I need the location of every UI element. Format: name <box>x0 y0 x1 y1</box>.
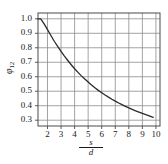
y-tick-label: 1.0 <box>10 14 32 23</box>
y-tick-label: 0.9 <box>10 28 32 37</box>
x-axis-label-denominator: d <box>79 147 103 157</box>
x-axis-label-numerator: s <box>79 138 103 147</box>
plot-background <box>38 13 160 126</box>
y-tick-label: 0.5 <box>10 86 32 95</box>
y-tick-label: 0.4 <box>10 101 32 110</box>
x-axis-label: s d <box>79 138 103 158</box>
x-tick-label: 10 <box>148 130 164 139</box>
y-axis-label-subscript: 12 <box>8 62 16 68</box>
y-tick-label: 0.3 <box>10 115 32 124</box>
y-axis-label: φ12 <box>4 51 16 85</box>
chart-figure: 0.30.40.50.60.70.80.91.0 2345678910 φ12 … <box>0 0 168 164</box>
y-axis-label-symbol: φ <box>3 68 14 74</box>
